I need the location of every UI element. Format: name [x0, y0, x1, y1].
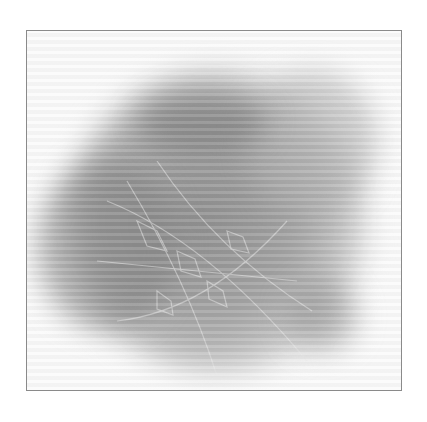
husk-photo — [27, 31, 401, 390]
scan-texture — [27, 31, 401, 390]
photo-frame — [26, 30, 402, 391]
